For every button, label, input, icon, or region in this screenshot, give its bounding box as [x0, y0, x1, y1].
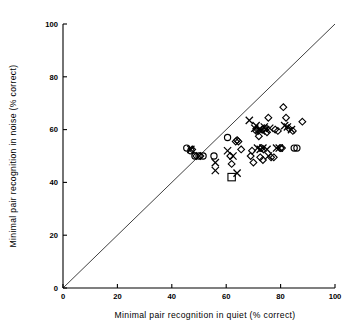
point-cross-2 [212, 167, 219, 174]
tick-labels-layer: 020406080100020406080100 [45, 20, 341, 301]
x-tick-label-60: 60 [222, 292, 230, 301]
y-tick-label-0: 0 [54, 284, 58, 293]
point-diamond-27 [280, 104, 287, 111]
y-tick-label-60: 60 [50, 125, 58, 134]
point-circle-5 [211, 153, 217, 159]
scatter-plot-figure: 020406080100020406080100 Minimal pair re… [0, 0, 358, 333]
series-diamond [189, 104, 306, 168]
point-diamond-20 [265, 114, 272, 121]
point-diamond-11 [250, 159, 257, 166]
point-diamond-28 [283, 114, 290, 121]
x-tick-label-0: 0 [61, 292, 65, 301]
y-tick-label-40: 40 [50, 178, 58, 187]
x-tick-label-40: 40 [168, 292, 176, 301]
point-square-0 [228, 173, 235, 180]
y-tick-label-80: 80 [50, 73, 58, 82]
point-diamond-7 [228, 161, 235, 168]
point-diamond-31 [299, 118, 306, 125]
point-cross-1 [212, 159, 219, 166]
point-circle-6 [224, 134, 230, 140]
point-diamond-8 [238, 146, 245, 153]
series-square [228, 173, 235, 180]
x-tick-label-80: 80 [276, 292, 284, 301]
point-cross-6 [246, 117, 253, 124]
x-tick-label-100: 100 [329, 292, 342, 301]
y-axis-label: Minimal pair recognition in noise (% cor… [8, 65, 18, 248]
y-tick-label-100: 100 [45, 20, 58, 29]
x-tick-label-20: 20 [113, 292, 121, 301]
data-markers-layer [184, 104, 306, 181]
point-cross-21 [281, 122, 288, 129]
x-axis-label: Minimal pair recognition in quiet (% cor… [114, 310, 295, 320]
y-tick-label-20: 20 [50, 231, 58, 240]
plot-canvas: 020406080100020406080100 Minimal pair re… [0, 0, 358, 333]
